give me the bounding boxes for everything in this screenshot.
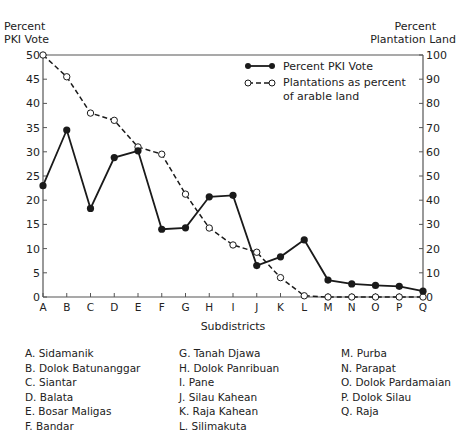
legend-plant-circle-icon <box>245 80 251 86</box>
pki-line <box>43 130 423 291</box>
pki-point <box>206 193 213 200</box>
pki-point <box>324 276 331 283</box>
subdistrict-key-item: D. Balata <box>25 390 140 405</box>
left-tick-label: 50 <box>26 49 40 62</box>
right-tick-label: 40 <box>426 194 440 207</box>
left-tick-label: 25 <box>26 170 40 183</box>
subdistrict-key-item: G. Tanah Djawa <box>179 346 279 361</box>
plantation-point <box>325 294 331 300</box>
plantation-point <box>64 74 70 80</box>
x-tick-label: O <box>371 301 379 313</box>
legend-pki-dot-icon <box>269 63 275 69</box>
pki-point <box>372 282 379 289</box>
series-pki-vote <box>39 126 426 294</box>
x-tick-label: B <box>63 301 70 313</box>
right-tick-label: 30 <box>426 218 440 231</box>
subdistrict-key-item: P. Dolok Silau <box>341 390 451 405</box>
subdistrict-key-item: A. Sidamanik <box>25 346 140 361</box>
right-tick-label: 90 <box>426 73 440 86</box>
plantation-line <box>43 55 423 297</box>
pki-point <box>277 253 284 260</box>
x-tick-label: K <box>277 301 285 313</box>
plot-frame <box>43 55 423 297</box>
subdistrict-key-item: J. Silau Kahean <box>179 390 279 405</box>
right-tick-label: 100 <box>426 49 447 62</box>
pki-point <box>253 262 260 269</box>
x-tick-label: A <box>39 301 47 313</box>
right-tick-label: 20 <box>426 243 440 256</box>
legend-pki-label: Percent PKI Vote <box>283 60 373 73</box>
legend-pki-dot-icon <box>245 63 251 69</box>
subdistrict-key-item: M. Purba <box>341 346 451 361</box>
subdistrict-key-item: L. Silimakuta <box>179 419 279 434</box>
x-axis-title: Subdistricts <box>201 320 266 333</box>
x-tick-label: N <box>348 301 356 313</box>
x-tick-label: Q <box>419 301 427 313</box>
pki-point <box>39 182 46 189</box>
pki-point <box>134 147 141 154</box>
x-tick-label: J <box>254 301 258 313</box>
left-tick-label: 15 <box>26 218 40 231</box>
subdistrict-key-item: I. Pane <box>179 375 279 390</box>
x-tick-label: I <box>231 301 234 313</box>
subdistrict-key-item: E. Bosar Maligas <box>25 404 140 419</box>
legend-plant-label-1: Plantations as percent <box>283 76 407 89</box>
plantation-point <box>396 294 402 300</box>
subdistrict-key-col-2: G. Tanah DjawaH. Dolok PanribuanI. PaneJ… <box>179 346 279 433</box>
subdistrict-key-item: F. Bandar <box>25 419 140 434</box>
left-tick-label: 40 <box>26 97 40 110</box>
x-tick-label: F <box>159 301 165 313</box>
pki-point <box>87 205 94 212</box>
legend-plant-label-2: of arable land <box>283 90 359 103</box>
plantation-point <box>87 110 93 116</box>
pki-point <box>419 288 426 295</box>
left-tick-label: 35 <box>26 122 40 135</box>
subdistrict-key-item: H. Dolok Panribuan <box>179 361 279 376</box>
x-tick-label: M <box>323 301 332 313</box>
pki-point <box>348 280 355 287</box>
left-tick-label: 45 <box>26 73 40 86</box>
plantation-point <box>254 249 260 255</box>
plantation-point <box>372 294 378 300</box>
right-tick-label: 80 <box>426 97 440 110</box>
x-tick-label: D <box>110 301 118 313</box>
pki-point <box>229 192 236 199</box>
right-tick-label: 60 <box>426 146 440 159</box>
subdistrict-key-item: Q. Raja <box>341 404 451 419</box>
pki-point <box>396 283 403 290</box>
left-tick-label: 20 <box>26 194 40 207</box>
plantation-point <box>40 52 46 58</box>
subdistrict-key-item: N. Parapat <box>341 361 451 376</box>
x-tick-label: C <box>87 301 94 313</box>
subdistrict-key-col-1: A. SidamanikB. Dolok BatunanggarC. Siant… <box>25 346 140 433</box>
legend-plant-circle-icon <box>269 80 275 86</box>
x-tick-label: P <box>396 301 402 313</box>
x-tick-label: H <box>205 301 213 313</box>
subdistrict-key-col-3: M. PurbaN. ParapatO. Dolok PardamaianP. … <box>341 346 451 419</box>
left-tick-label: 5 <box>33 267 40 280</box>
right-tick-label: 10 <box>426 267 440 280</box>
left-axis-ticks: 05101520253035404550 <box>26 49 47 304</box>
right-tick-label: 50 <box>426 170 440 183</box>
plantation-point <box>206 225 212 231</box>
plantation-point <box>111 117 117 123</box>
subdistrict-key-item: K. Raja Kahean <box>179 404 279 419</box>
subdistrict-key-item: O. Dolok Pardamaian <box>341 375 451 390</box>
pki-point <box>111 154 118 161</box>
pki-point <box>182 224 189 231</box>
subdistrict-key-item: C. Siantar <box>25 375 140 390</box>
x-tick-label: E <box>135 301 142 313</box>
plantation-point <box>182 191 188 197</box>
pki-point <box>301 236 308 243</box>
chart-legend: Percent PKI Vote Plantations as percent … <box>245 60 407 103</box>
left-tick-label: 30 <box>26 146 40 159</box>
plantation-point <box>349 294 355 300</box>
plantation-point <box>301 293 307 299</box>
x-tick-label: G <box>181 301 189 313</box>
plantation-point <box>159 151 165 157</box>
plantation-point <box>277 274 283 280</box>
pki-point <box>158 226 165 233</box>
dual-axis-line-chart: 05101520253035404550 0102030405060708090… <box>0 0 468 340</box>
x-tick-label: L <box>301 301 307 313</box>
left-tick-label: 10 <box>26 243 40 256</box>
